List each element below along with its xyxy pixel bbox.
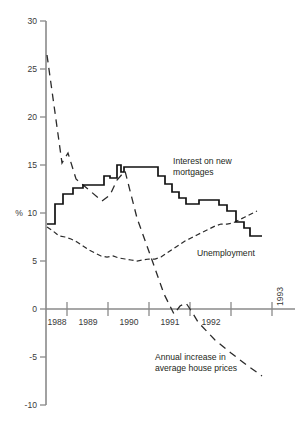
x-tick-label-1989: 1989: [78, 317, 97, 327]
y-tick-label-10: 10: [27, 208, 37, 218]
y-tick-label-0: 0: [32, 304, 37, 314]
y-tick-label-15: 15: [27, 160, 37, 170]
annotation-interest-mortgages-line1: Interest on new: [173, 156, 233, 166]
x-tick-label-1993-rotated: 1993: [275, 287, 285, 306]
y-tick-label-30: 30: [27, 16, 37, 26]
economic-indicators-line-chart: 30 25 20 15 10 5 0 -5 -10 % 1988 1989 19…: [0, 0, 302, 430]
y-tick-label-neg10: -10: [25, 400, 38, 410]
chart-container: 30 25 20 15 10 5 0 -5 -10 % 1988 1989 19…: [0, 0, 302, 430]
x-tick-label-1990: 1990: [119, 317, 138, 327]
y-tick-label-20: 20: [27, 112, 37, 122]
x-tick-label-1991: 1991: [160, 317, 179, 327]
y-tick-label-5: 5: [32, 256, 37, 266]
y-tick-label-25: 25: [27, 64, 37, 74]
x-tick-label-1988: 1988: [47, 317, 66, 327]
y-axis-ticks: [40, 21, 46, 405]
x-tick-label-1992: 1992: [201, 317, 220, 327]
annotation-house-prices-line1: Annual increase in: [155, 352, 226, 362]
annotation-house-prices-line2: average house prices: [155, 363, 237, 373]
series-interest-mortgages-line: [47, 165, 262, 236]
y-axis-unit-label: %: [15, 208, 23, 218]
annotation-interest-mortgages-line2: mortgages: [173, 167, 214, 177]
series-house-prices-line: [47, 55, 262, 376]
annotation-unemployment: Unemployment: [197, 248, 255, 258]
y-tick-label-neg5: -5: [29, 352, 37, 362]
